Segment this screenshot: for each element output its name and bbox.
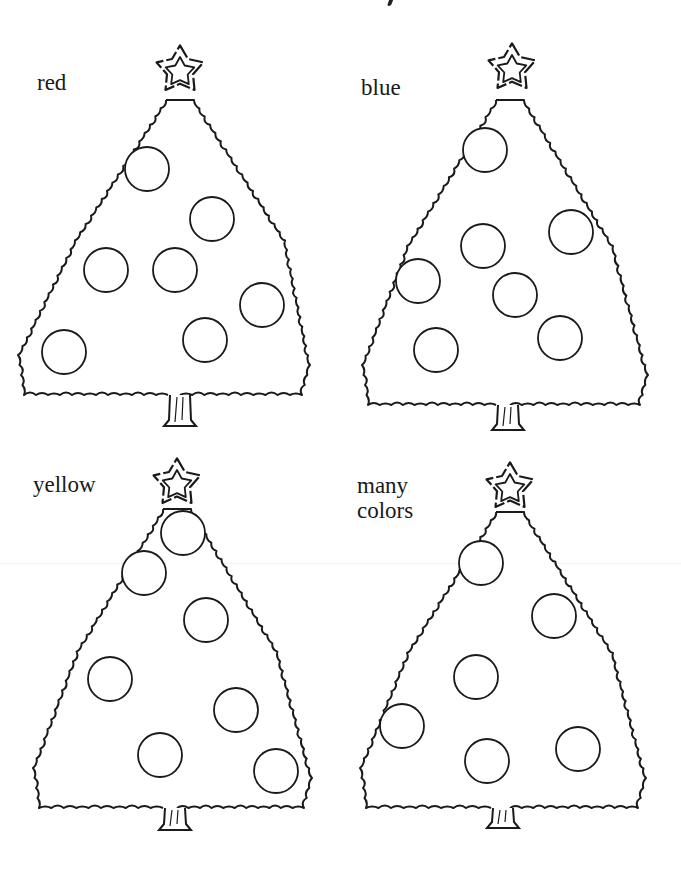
ornament-circle[interactable] <box>84 248 128 292</box>
ornament-circle[interactable] <box>396 259 440 303</box>
ornament-circle[interactable] <box>459 541 503 585</box>
tree-trunk <box>487 808 519 828</box>
coloring-worksheet: red blue yellow many colors <box>0 0 681 872</box>
ornament-circle[interactable] <box>161 511 205 555</box>
tree-trunk <box>159 808 191 830</box>
tree-yellow <box>33 458 312 830</box>
tree-label-many-colors: many colors <box>357 473 413 523</box>
ornament-circle[interactable] <box>380 704 424 748</box>
ornament-circle[interactable] <box>538 316 582 360</box>
star-icon <box>487 462 534 507</box>
ornament-circle[interactable] <box>532 594 576 638</box>
ornament-circle[interactable] <box>493 273 537 317</box>
ornament-circle[interactable] <box>214 688 258 732</box>
ornament-circle[interactable] <box>183 318 227 362</box>
ornament-circle[interactable] <box>138 733 182 777</box>
ornament-circle[interactable] <box>190 197 234 241</box>
tree-red <box>18 45 310 426</box>
ornament-circle[interactable] <box>465 739 509 783</box>
ornament-circle[interactable] <box>122 551 166 595</box>
ornament-circle[interactable] <box>414 328 458 372</box>
star-icon <box>489 43 536 88</box>
tree-blue <box>362 43 648 430</box>
star-icon <box>154 458 201 503</box>
trees-artwork <box>0 0 681 872</box>
tree-trunk <box>164 395 196 426</box>
tree-trunk <box>492 405 524 430</box>
ornament-circle[interactable] <box>454 655 498 699</box>
ornament-circle[interactable] <box>549 210 593 254</box>
tree-label-blue: blue <box>361 75 401 100</box>
ornament-circle[interactable] <box>42 330 86 374</box>
tree-label-yellow: yellow <box>33 472 96 497</box>
ornament-circle[interactable] <box>254 749 298 793</box>
ornament-circle[interactable] <box>125 147 169 191</box>
ornament-circle[interactable] <box>88 657 132 701</box>
tree-label-red: red <box>37 70 66 95</box>
ornament-circle[interactable] <box>463 128 507 172</box>
star-icon <box>157 45 204 90</box>
ornament-circle[interactable] <box>153 248 197 292</box>
ornament-circle[interactable] <box>184 598 228 642</box>
ornament-circle[interactable] <box>556 727 600 771</box>
ornament-circle[interactable] <box>240 283 284 327</box>
ornament-circle[interactable] <box>461 224 505 268</box>
